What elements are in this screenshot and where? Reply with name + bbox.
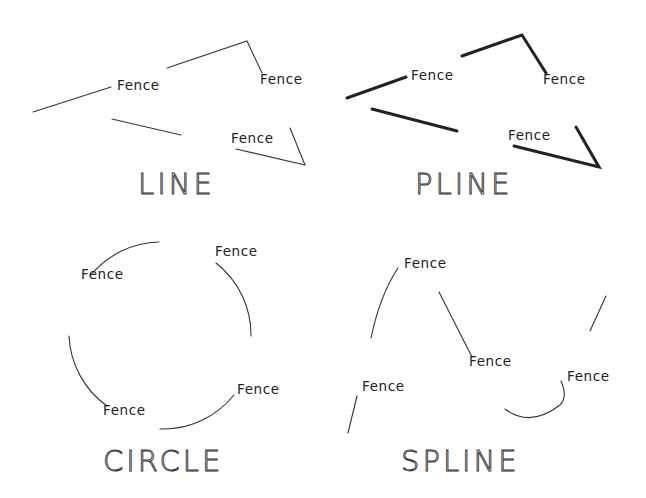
panel-spline: FenceFenceFenceFenceSPLINE [348, 255, 610, 478]
fence-label: Fence [81, 266, 124, 282]
fence-label: Fence [404, 255, 447, 271]
fence-label: Fence [543, 71, 586, 87]
fence-label: Fence [103, 402, 146, 418]
spline-fence-segment [371, 268, 398, 338]
fence-label: Fence [567, 368, 610, 384]
line-title: LINE [138, 167, 215, 201]
panel-pline: FenceFenceFencePLINE [347, 35, 599, 201]
fence-label: Fence [237, 381, 280, 397]
spline-fence-segment [505, 381, 564, 418]
fence-label: Fence [469, 353, 512, 369]
pline-fence-segment [462, 35, 546, 73]
pline-fence-segment [347, 77, 406, 98]
spline-fence-segment [439, 292, 472, 357]
spline-title: SPLINE [401, 444, 520, 478]
circle-fence-segment [160, 395, 234, 429]
fence-label: Fence [362, 378, 405, 394]
line-fence-segment [167, 41, 262, 73]
fence-label: Fence [411, 67, 454, 83]
panel-line: FenceFenceFenceLINE [33, 41, 305, 201]
circle-title: CIRCLE [103, 444, 223, 478]
fence-label: Fence [260, 71, 303, 87]
fence-label: Fence [215, 243, 258, 259]
pline-title: PLINE [415, 167, 512, 201]
line-fence-segment [33, 87, 111, 112]
circle-fence-segment [69, 336, 107, 406]
line-fence-segment [112, 119, 181, 135]
spline-fence-segment [590, 296, 606, 331]
fence-label: Fence [508, 127, 551, 143]
panel-circle: FenceFenceFenceFenceCIRCLE [69, 242, 280, 478]
fence-label: Fence [117, 77, 160, 93]
spline-fence-segment [348, 396, 357, 433]
circle-fence-segment [216, 263, 251, 336]
fence-label: Fence [231, 130, 274, 146]
linetype-diagram: FenceFenceFenceLINE FenceFenceFencePLINE… [0, 0, 646, 498]
pline-fence-segment [372, 109, 457, 131]
